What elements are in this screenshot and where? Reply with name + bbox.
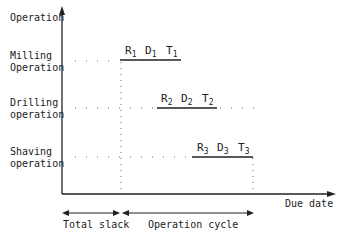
total-slack-label: Total slack xyxy=(63,219,129,231)
x-axis-label: Due date xyxy=(285,198,333,210)
op-label-shaving-1: Shaving xyxy=(10,146,52,158)
symbol-t3: T3 xyxy=(238,142,249,158)
op-label-milling-2: Operation xyxy=(10,62,64,74)
op-label-milling-1: Milling xyxy=(10,50,52,62)
x-axis-arrow-icon xyxy=(327,191,336,197)
symbol-r3: R3 xyxy=(197,142,208,158)
operation-cycle-label: Operation cycle xyxy=(148,219,238,231)
symbol-r1: R1 xyxy=(125,45,136,61)
symbol-t2: T2 xyxy=(202,93,213,109)
y-axis-label: Operation xyxy=(10,12,64,24)
symbol-r2: R2 xyxy=(161,93,172,109)
op-label-drilling-2: operation xyxy=(10,109,64,121)
symbol-t1: T1 xyxy=(166,45,177,61)
symbol-d3: D3 xyxy=(217,142,228,158)
op-label-drilling-1: Drilling xyxy=(10,97,58,109)
op-label-shaving-2: operation xyxy=(10,158,64,170)
symbol-d1: D1 xyxy=(145,45,156,61)
symbol-d2: D2 xyxy=(181,93,192,109)
